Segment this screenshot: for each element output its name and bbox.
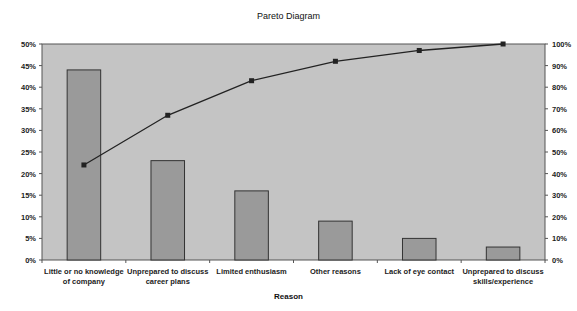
y-tick-label: 5%: [25, 234, 36, 243]
y-tick-label: 20%: [21, 170, 36, 179]
line-marker: [333, 59, 338, 64]
y-tick-label: 50%: [21, 40, 36, 49]
x-category-label: Limited enthusiasm: [216, 267, 287, 276]
x-category-label: Lack of eye contact: [384, 267, 454, 276]
line-marker: [249, 78, 254, 83]
pareto-chart: 0%5%10%15%20%25%30%35%40%45%50%0%10%20%3…: [0, 0, 577, 311]
y2-tick-label: 40%: [552, 170, 567, 179]
y-tick-label: 45%: [21, 62, 36, 71]
y-tick-label: 15%: [21, 191, 36, 200]
y-tick-label: 40%: [21, 83, 36, 92]
bar: [151, 161, 185, 260]
y2-tick-label: 50%: [552, 148, 567, 157]
line-marker: [81, 162, 86, 167]
plot-area: [42, 44, 545, 260]
line-marker: [501, 42, 506, 47]
y2-tick-label: 80%: [552, 83, 567, 92]
bar: [402, 238, 436, 260]
y2-tick-label: 0%: [552, 256, 563, 265]
y2-tick-label: 70%: [552, 105, 567, 114]
x-axis-title: Reason: [0, 292, 577, 301]
line-marker: [165, 113, 170, 118]
x-category-label: career plans: [146, 277, 190, 286]
bar: [319, 221, 353, 260]
bar: [486, 247, 520, 260]
line-marker: [417, 48, 422, 53]
x-category-label: Other reasons: [310, 267, 361, 276]
y-tick-label: 35%: [21, 105, 36, 114]
y2-tick-label: 30%: [552, 191, 567, 200]
y-tick-label: 30%: [21, 126, 36, 135]
bar: [235, 191, 269, 260]
x-category-label: Little or no knowledge: [44, 267, 124, 276]
y2-tick-label: 20%: [552, 213, 567, 222]
y2-tick-label: 100%: [552, 40, 572, 49]
y2-tick-label: 10%: [552, 234, 567, 243]
y2-tick-label: 90%: [552, 62, 567, 71]
x-category-label: Unprepared to discuss: [462, 267, 543, 276]
y2-tick-label: 60%: [552, 126, 567, 135]
y-tick-label: 25%: [21, 148, 36, 157]
y-tick-label: 10%: [21, 213, 36, 222]
x-category-label: of company: [63, 277, 106, 286]
x-category-label: skills/experience: [473, 277, 533, 286]
y-tick-label: 0%: [25, 256, 36, 265]
x-category-label: Unprepared to discuss: [127, 267, 208, 276]
